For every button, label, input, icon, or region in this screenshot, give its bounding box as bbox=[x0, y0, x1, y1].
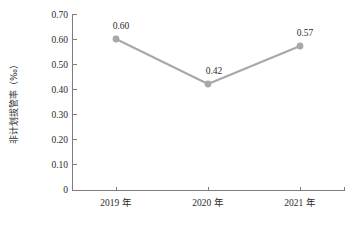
x-tick-label: 2019 年 bbox=[100, 197, 131, 208]
data-value-label: 0.60 bbox=[113, 21, 130, 31]
data-point-marker bbox=[297, 43, 304, 50]
x-tick-label: 2021 年 bbox=[284, 197, 315, 208]
data-value-label: 0.42 bbox=[206, 66, 223, 76]
data-value-label: 0.57 bbox=[297, 28, 314, 38]
y-tick-label: 0.10 bbox=[51, 160, 68, 170]
y-tick-label: 0.20 bbox=[51, 135, 68, 145]
y-tick-label: 0.60 bbox=[51, 35, 68, 45]
y-tick-label: 0.30 bbox=[51, 110, 68, 120]
data-point-marker bbox=[113, 36, 120, 43]
y-tick-label: 0.50 bbox=[51, 60, 68, 70]
chart-canvas: 0.70 0.60 0.50 0.40 0.30 0.20 0.10 0 201… bbox=[0, 0, 362, 225]
x-tick-label: 2020 年 bbox=[192, 197, 223, 208]
data-point-marker bbox=[205, 81, 212, 88]
line-chart: 0.70 0.60 0.50 0.40 0.30 0.20 0.10 0 201… bbox=[0, 0, 362, 225]
y-axis-title: 非计划拔管率（‰） bbox=[8, 60, 19, 144]
y-tick-label: 0.70 bbox=[51, 10, 68, 20]
y-tick-label: 0.40 bbox=[51, 85, 68, 95]
y-tick-label: 0 bbox=[63, 185, 68, 195]
